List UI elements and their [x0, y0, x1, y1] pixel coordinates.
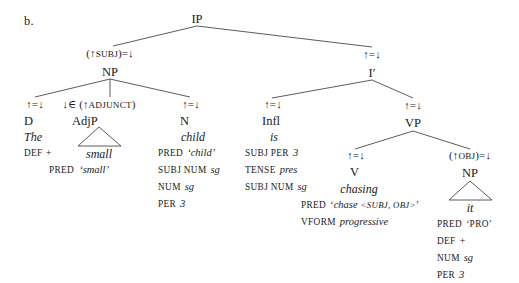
node-d: D	[24, 115, 33, 128]
feature-n-per-attr: PER	[158, 199, 176, 209]
annotation-np-subj-post: )=↓	[118, 47, 134, 59]
feature-obj-def-attr: DEF	[437, 236, 456, 246]
annotation-np-subj-pre: (↑	[86, 47, 95, 59]
annotation-vp: ↑=↓	[404, 100, 422, 111]
terminal-chasing: chasing	[340, 183, 377, 195]
feature-obj-per: PER3	[437, 270, 465, 281]
feature-obj-def-value: +	[460, 235, 466, 246]
annotation-adjp: ↓∈ (↑ADJUNCT)	[62, 99, 135, 110]
node-v: V	[350, 166, 359, 179]
node-n: N	[180, 115, 189, 128]
feature-infl-tense: TENSEpres	[245, 165, 297, 176]
annotation-ibar: ↑=↓	[363, 49, 381, 60]
node-np-obj: NP	[462, 167, 478, 180]
feature-obj-def: DEF+	[437, 236, 465, 246]
annotation-adjp-feature: ADJUNCT	[89, 100, 132, 110]
feature-v-pred-close: ’	[416, 199, 419, 210]
feature-infl-tense-value: pres	[280, 164, 298, 175]
feature-v-vform-value: progressive	[340, 216, 388, 227]
feature-v-pred: PRED‘chase<SUBJ, OBJ>’	[301, 200, 419, 211]
feature-n-num-value: sg	[185, 181, 194, 192]
feature-obj-pred-value: ‘PRO’	[466, 219, 492, 229]
feature-d-def-value: +	[46, 147, 52, 158]
feature-v-pred-attr: PRED	[301, 200, 326, 210]
annotation-np-obj: (↑OBJ)=↓	[449, 150, 491, 161]
node-vp: VP	[405, 117, 421, 130]
feature-obj-pred: PRED‘PRO’	[437, 219, 492, 229]
feature-d-def: DEF+	[24, 148, 51, 158]
annotation-np-obj-pre: (↑	[449, 149, 458, 161]
feature-obj-pred-attr: PRED	[437, 219, 462, 229]
panel-label: b.	[24, 14, 34, 29]
feature-n-per: PER3	[158, 199, 186, 210]
feature-n-pred: PRED‘child’	[158, 148, 215, 159]
feature-infl-subj-per: SUBJ PER3	[245, 148, 298, 159]
feature-v-pred-arguments: <SUBJ, OBJ>	[361, 200, 416, 210]
feature-n-num-attr: NUM	[158, 182, 181, 192]
node-np-subj: NP	[102, 66, 118, 79]
terminal-small: small	[86, 148, 112, 160]
node-ibar: I′	[369, 67, 376, 80]
node-ip: IP	[191, 13, 202, 26]
feature-adjp-pred: PRED‘small’	[49, 165, 109, 176]
feature-obj-num: NUMsg	[437, 253, 473, 264]
terminal-is: is	[270, 131, 278, 143]
annotation-np-subj-feature: SUBJ	[96, 49, 118, 59]
annotation-d: ↑=↓	[26, 99, 44, 110]
feature-infl-subj-per-attr: SUBJ PER	[245, 148, 289, 158]
feature-n-pred-value: ‘child’	[187, 147, 215, 158]
feature-infl-subj-num: SUBJ NUMsg	[245, 182, 307, 193]
feature-v-vform-attr: VFORM	[301, 217, 336, 227]
feature-obj-per-value: 3	[459, 269, 464, 280]
feature-n-per-value: 3	[180, 198, 185, 209]
feature-adjp-pred-value: ‘small’	[79, 164, 109, 175]
terminal-child: child	[181, 131, 205, 143]
feature-infl-tense-attr: TENSE	[245, 165, 276, 175]
annotation-v: ↑=↓	[347, 150, 365, 161]
annotation-np-subj: (↑SUBJ)=↓	[86, 48, 133, 59]
node-infl: Infl	[262, 115, 280, 128]
terminal-the: The	[24, 131, 42, 143]
annotation-np-obj-feature: OBJ	[458, 151, 475, 161]
feature-adjp-pred-attr: PRED	[49, 165, 74, 175]
terminal-it: it	[467, 202, 474, 214]
annotation-infl: ↑=↓	[264, 99, 282, 110]
feature-infl-subj-num-attr: SUBJ NUM	[245, 182, 294, 192]
feature-n-subj-num-attr: SUBJ NUM	[158, 165, 207, 175]
annotation-n: ↑=↓	[182, 99, 200, 110]
feature-n-num: NUMsg	[158, 182, 194, 193]
feature-obj-num-value: sg	[464, 252, 473, 263]
figure-canvas: b. IP (↑S	[0, 0, 519, 283]
node-adjp: AdjP	[72, 115, 98, 128]
feature-infl-subj-per-value: 3	[293, 147, 298, 158]
feature-n-subj-num-value: sg	[211, 164, 220, 175]
feature-v-vform: VFORMprogressive	[301, 217, 388, 228]
feature-n-pred-attr: PRED	[158, 148, 183, 158]
feature-infl-subj-num-value: sg	[298, 181, 307, 192]
feature-obj-per-attr: PER	[437, 270, 455, 280]
feature-n-subj-num: SUBJ NUMsg	[158, 165, 220, 176]
annotation-np-obj-post: )=↓	[475, 149, 491, 161]
feature-v-pred-value: chase	[334, 199, 358, 210]
feature-d-def-attr: DEF	[24, 148, 43, 158]
feature-obj-num-attr: NUM	[437, 253, 460, 263]
annotation-adjp-pre: ↓∈ (↑	[62, 98, 88, 110]
annotation-adjp-post: )	[132, 98, 136, 110]
